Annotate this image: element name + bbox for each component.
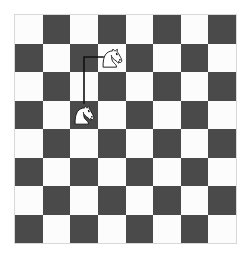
board-square[interactable] [15,158,43,187]
board-square[interactable] [208,129,236,158]
board-square[interactable] [126,72,154,101]
board-square[interactable] [43,129,71,158]
board-square[interactable] [70,158,98,187]
board-square[interactable] [15,15,43,44]
board-square[interactable] [70,44,98,73]
board-square[interactable] [208,101,236,130]
board-square[interactable] [126,186,154,215]
board-square[interactable] [70,72,98,101]
board-square[interactable] [126,44,154,73]
board-square[interactable] [15,44,43,73]
board-square[interactable] [98,215,126,244]
board-square[interactable] [126,15,154,44]
board-square[interactable] [98,101,126,130]
board-square[interactable] [153,44,181,73]
board-square[interactable] [208,44,236,73]
board-square[interactable] [153,215,181,244]
board-square[interactable] [70,129,98,158]
board-square[interactable] [43,101,71,130]
board-square[interactable] [153,72,181,101]
board-square[interactable] [181,72,209,101]
board-square[interactable] [43,44,71,73]
board-square[interactable] [153,186,181,215]
board-square[interactable] [98,186,126,215]
board-square[interactable] [153,101,181,130]
board-square[interactable] [153,15,181,44]
board-square[interactable] [15,215,43,244]
board-square[interactable] [43,15,71,44]
board-square[interactable] [181,186,209,215]
board-square[interactable] [98,15,126,44]
board-square[interactable] [126,158,154,187]
board-square[interactable] [43,186,71,215]
board-square[interactable] [70,186,98,215]
board-square[interactable] [15,101,43,130]
board-square[interactable] [98,158,126,187]
board-square[interactable] [126,215,154,244]
board-square[interactable] [70,101,98,130]
chess-diagram-screenshot [0,0,250,260]
board-square[interactable] [181,129,209,158]
board-square[interactable] [15,186,43,215]
board-square[interactable] [208,215,236,244]
board-square[interactable] [43,158,71,187]
board-square[interactable] [181,158,209,187]
chessboard-squares [15,15,236,243]
board-square[interactable] [43,72,71,101]
board-square[interactable] [98,72,126,101]
board-square[interactable] [208,158,236,187]
board-square[interactable] [153,129,181,158]
board-square[interactable] [181,15,209,44]
board-square[interactable] [126,101,154,130]
board-square[interactable] [181,215,209,244]
board-square[interactable] [70,215,98,244]
board-square[interactable] [15,129,43,158]
board-square[interactable] [181,44,209,73]
board-square[interactable] [126,129,154,158]
board-square[interactable] [208,72,236,101]
board-square[interactable] [98,129,126,158]
board-square[interactable] [70,15,98,44]
board-square[interactable] [98,44,126,73]
board-square[interactable] [15,72,43,101]
chessboard[interactable] [15,15,236,243]
board-square[interactable] [208,186,236,215]
board-square[interactable] [181,101,209,130]
board-square[interactable] [208,15,236,44]
board-square[interactable] [43,215,71,244]
board-square[interactable] [153,158,181,187]
